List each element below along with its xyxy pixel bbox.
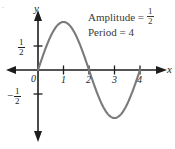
y-tick-negative-denominator: 2 bbox=[14, 96, 21, 106]
annotation-block: Amplitude = 1 2 Period = 4 bbox=[88, 10, 154, 40]
y-tick-label-positive-half: 1 2 bbox=[18, 38, 25, 57]
y-tick-positive-denominator: 2 bbox=[18, 47, 25, 57]
figure-canvas: . Amplitude bbox=[0, 0, 175, 149]
y-tick-negative-numerator: 1 bbox=[14, 87, 21, 96]
amplitude-denominator: 2 bbox=[147, 16, 154, 26]
x-axis-right-arrowhead bbox=[156, 66, 167, 74]
period-annotation: Period = 4 bbox=[88, 25, 154, 40]
x-axis-name-label: x bbox=[167, 64, 172, 75]
period-label: Period = 4 bbox=[88, 25, 134, 40]
y-tick-label-negative-half: 1 2 bbox=[14, 87, 21, 106]
x-tick-label-3: 3 bbox=[112, 75, 117, 85]
amplitude-label: Amplitude = bbox=[88, 10, 144, 25]
x-tick-label-2: 2 bbox=[86, 75, 91, 85]
x-axis-left-arrowhead bbox=[6, 66, 16, 74]
y-tick-negative-minus-sign: − bbox=[7, 90, 13, 101]
x-tick-label-4: 4 bbox=[137, 75, 142, 85]
y-tick-positive-numerator: 1 bbox=[18, 38, 25, 47]
y-axis-name-label: y bbox=[34, 3, 39, 14]
amplitude-numerator: 1 bbox=[147, 7, 154, 16]
x-tick-label-1: 1 bbox=[61, 75, 66, 85]
origin-label: 0 bbox=[31, 74, 36, 84]
amplitude-annotation: Amplitude = 1 2 bbox=[88, 10, 154, 25]
y-axis-bottom-arrowhead bbox=[34, 131, 42, 142]
amplitude-fraction: 1 2 bbox=[147, 7, 154, 26]
